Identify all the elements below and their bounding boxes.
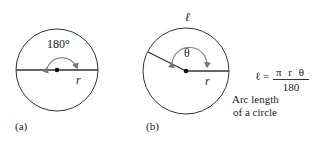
radius-label-a: r [76, 74, 81, 86]
angle-label-theta: θ [184, 47, 190, 59]
panel-label-b: (b) [146, 121, 159, 132]
circle-b [143, 28, 229, 114]
angle-label-180: 180° [47, 38, 70, 50]
radius-line-angled [148, 52, 186, 71]
panel-label-a: (a) [15, 121, 27, 132]
formula-denominator: 180 [273, 80, 309, 93]
center-point [184, 69, 189, 74]
center-point [55, 68, 60, 73]
angle-arc-180 [47, 58, 77, 68]
caption-line-2: of a circle [233, 107, 277, 118]
formula-lhs: ℓ = [255, 71, 269, 82]
radius-label-b: r [205, 75, 210, 87]
caption-line-1: Arc length [232, 94, 279, 105]
formula-numerator: π r θ [273, 66, 309, 80]
formula-fraction: π r θ 180 [273, 66, 309, 93]
arc-label-ell: ℓ [185, 11, 190, 23]
